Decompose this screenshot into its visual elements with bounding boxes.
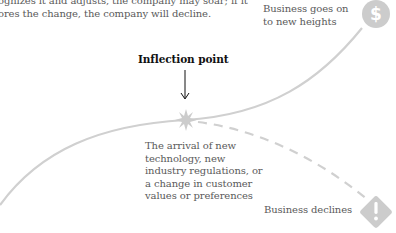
- starburst-icon: [175, 109, 197, 131]
- desc-line: values or preferences: [145, 190, 263, 203]
- dollar-icon: $: [362, 0, 390, 28]
- inflection-title: Inflection point: [138, 53, 228, 66]
- desc-line: The arrival of new: [145, 140, 263, 153]
- outcome-up-label: Business goes on to new heights: [263, 3, 348, 28]
- svg-text:$: $: [370, 4, 382, 24]
- intro-line-1: ognizes it and adjusts, the company may …: [0, 0, 248, 8]
- intro-text: ognizes it and adjusts, the company may …: [0, 0, 248, 20]
- warning-icon: [359, 195, 393, 229]
- intro-line-2: ores the change, the company will declin…: [0, 8, 248, 21]
- desc-line: a change in customer: [145, 178, 263, 191]
- outcome-up-line-1: Business goes on: [263, 3, 348, 16]
- down-arrow-icon: [181, 70, 189, 99]
- desc-line: industry regulations, or: [145, 165, 263, 178]
- outcome-down-label: Business declines: [264, 204, 352, 217]
- inflection-description: The arrival of new technology, new indus…: [145, 140, 263, 203]
- desc-line: technology, new: [145, 153, 263, 166]
- outcome-up-line-2: to new heights: [263, 16, 348, 29]
